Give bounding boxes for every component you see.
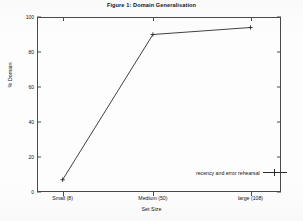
legend-entry-label: recency and error rehearsal [196, 170, 260, 176]
legend-key-plus-icon [263, 169, 287, 176]
series-layer [0, 0, 303, 221]
series-markers [60, 25, 252, 182]
legend: recency and error rehearsal [196, 169, 287, 176]
figure-container: Figure 1: Domain Generalisation % Domain… [0, 0, 303, 221]
series-line-recency-and-error-rehearsal [63, 28, 251, 180]
